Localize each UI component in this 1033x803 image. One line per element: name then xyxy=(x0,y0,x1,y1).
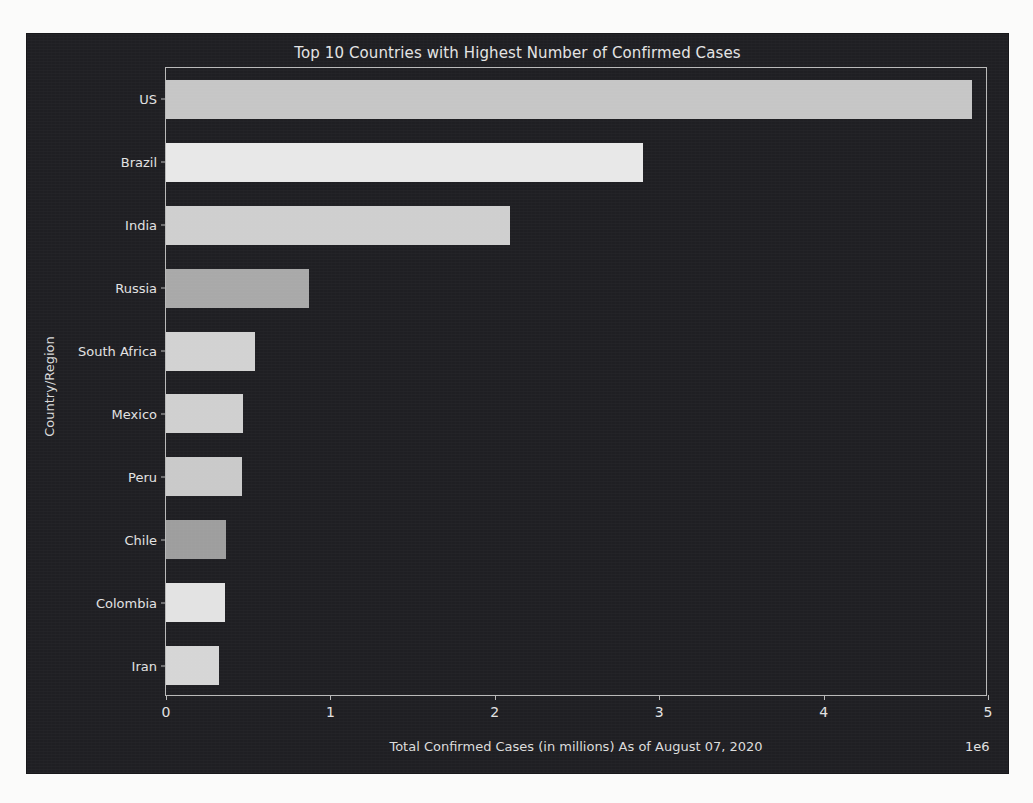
bar-colombia[interactable] xyxy=(166,583,225,622)
bar-row: India xyxy=(166,206,986,245)
chart-title: Top 10 Countries with Highest Number of … xyxy=(27,44,1008,62)
y-tick-mark xyxy=(161,665,166,666)
y-tick-mark xyxy=(161,539,166,540)
y-axis-label: Country/Region xyxy=(42,317,57,457)
x-tick-mark xyxy=(988,695,989,700)
bar-row: Iran xyxy=(166,646,986,685)
y-tick-label-peru: Peru xyxy=(128,469,157,484)
bar-peru[interactable] xyxy=(166,457,242,496)
y-tick-mark xyxy=(161,413,166,414)
plot-area: USBrazilIndiaRussiaSouth AfricaMexicoPer… xyxy=(165,67,987,696)
y-tick-label-mexico: Mexico xyxy=(112,406,157,421)
y-tick-mark xyxy=(161,99,166,100)
bar-row: Mexico xyxy=(166,394,986,433)
bar-mexico[interactable] xyxy=(166,394,243,433)
bar-row: Chile xyxy=(166,520,986,559)
y-tick-label-us: US xyxy=(139,92,157,107)
x-tick-mark xyxy=(330,695,331,700)
x-tick-label: 1 xyxy=(326,704,335,720)
bar-south-africa[interactable] xyxy=(166,332,255,371)
y-tick-label-colombia: Colombia xyxy=(96,595,157,610)
y-tick-mark xyxy=(161,476,166,477)
y-tick-label-iran: Iran xyxy=(132,658,157,673)
x-tick-mark xyxy=(495,695,496,700)
bar-row: US xyxy=(166,80,986,119)
page-canvas: Top 10 Countries with Highest Number of … xyxy=(0,0,1033,803)
y-tick-mark xyxy=(161,225,166,226)
x-axis-label: Total Confirmed Cases (in millions) As o… xyxy=(165,739,987,754)
x-tick-label: 4 xyxy=(819,704,828,720)
y-tick-mark xyxy=(161,162,166,163)
x-tick-label: 2 xyxy=(490,704,499,720)
x-tick-mark xyxy=(824,695,825,700)
bar-iran[interactable] xyxy=(166,646,219,685)
bar-series: USBrazilIndiaRussiaSouth AfricaMexicoPer… xyxy=(166,68,986,695)
x-tick-mark xyxy=(166,695,167,700)
y-tick-mark xyxy=(161,351,166,352)
y-tick-label-south-africa: South Africa xyxy=(78,344,157,359)
bar-russia[interactable] xyxy=(166,269,309,308)
y-tick-label-chile: Chile xyxy=(124,532,157,547)
bar-india[interactable] xyxy=(166,206,510,245)
y-tick-label-brazil: Brazil xyxy=(121,155,157,170)
x-tick-label: 5 xyxy=(984,704,993,720)
x-tick-label: 0 xyxy=(162,704,171,720)
x-tick-label: 3 xyxy=(655,704,664,720)
y-tick-label-russia: Russia xyxy=(115,281,157,296)
x-axis-exponent-label: 1e6 xyxy=(965,739,990,754)
bar-row: Peru xyxy=(166,457,986,496)
matplotlib-figure: Top 10 Countries with Highest Number of … xyxy=(27,34,1008,773)
bar-row: Brazil xyxy=(166,143,986,182)
bar-brazil[interactable] xyxy=(166,143,643,182)
bar-chile[interactable] xyxy=(166,520,226,559)
bar-us[interactable] xyxy=(166,80,972,119)
bar-row: Russia xyxy=(166,269,986,308)
y-tick-mark xyxy=(161,602,166,603)
x-tick-mark xyxy=(659,695,660,700)
y-tick-label-india: India xyxy=(125,218,157,233)
bar-row: South Africa xyxy=(166,332,986,371)
bar-row: Colombia xyxy=(166,583,986,622)
y-tick-mark xyxy=(161,288,166,289)
